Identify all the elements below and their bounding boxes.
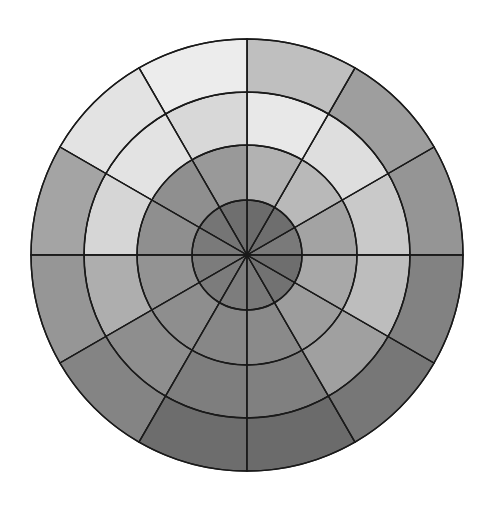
polar-chart-canvas	[0, 0, 491, 506]
polar-grid-chart	[0, 0, 491, 506]
